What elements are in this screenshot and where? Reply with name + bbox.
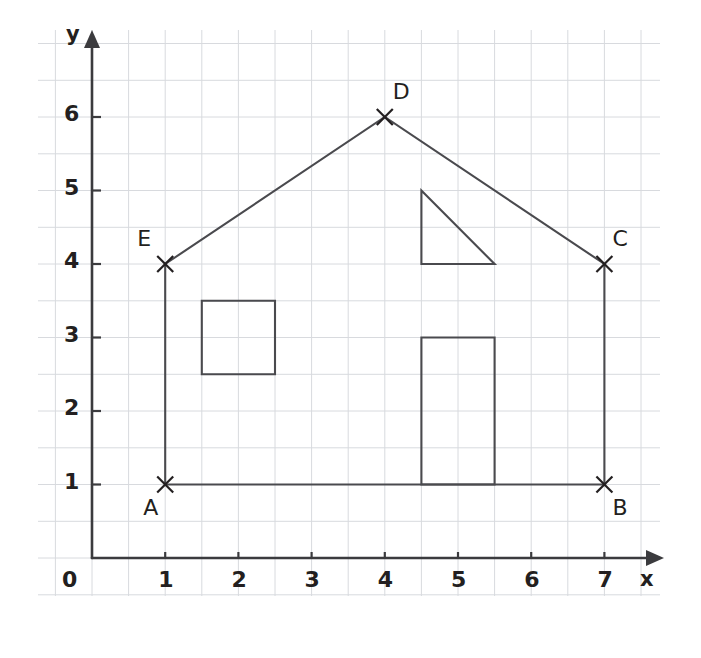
point-label-e: E [137, 226, 151, 251]
point-label-c: C [612, 226, 627, 251]
x-tick-label-5: 5 [451, 567, 466, 592]
y-axis-arrowhead [84, 30, 100, 48]
y-tick-label-3: 3 [64, 322, 79, 347]
origin-label: 0 [62, 567, 77, 592]
y-axis-label: y [66, 22, 80, 46]
x-axis-label: x [640, 567, 654, 591]
x-tick-label-1: 1 [158, 567, 173, 592]
x-axis-arrowhead [646, 550, 664, 566]
y-tick-label-6: 6 [64, 101, 79, 126]
y-tick-label-5: 5 [64, 175, 79, 200]
x-tick-label-3: 3 [305, 567, 320, 592]
x-tick-label-4: 4 [378, 567, 393, 592]
point-label-a: A [143, 495, 158, 520]
x-tick-label-7: 7 [597, 567, 612, 592]
y-tick-label-2: 2 [64, 395, 79, 420]
grid-lines [38, 30, 660, 596]
x-tick-label-2: 2 [231, 567, 246, 592]
coordinate-plot [0, 0, 701, 658]
x-tick-label-6: 6 [524, 567, 539, 592]
point-label-d: D [393, 79, 410, 104]
point-label-b: B [612, 495, 627, 520]
y-tick-label-1: 1 [64, 469, 79, 494]
figure-canvas: ABCDE12345671234560xy [0, 0, 701, 658]
y-tick-label-4: 4 [64, 248, 79, 273]
axes [84, 30, 664, 566]
